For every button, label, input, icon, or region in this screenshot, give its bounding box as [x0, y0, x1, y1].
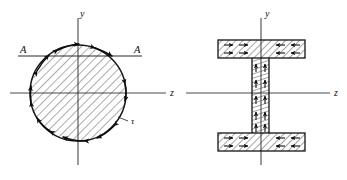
circular-cross-section-panel: y z A A τ [10, 8, 174, 165]
ibeam-z-axis-label: z [333, 87, 338, 98]
circular-y-axis-label: y [79, 8, 85, 19]
bottom-flange-hatch [218, 133, 305, 151]
section-label-a-left: A [19, 44, 27, 55]
ibeam-cross-section-panel: y z [186, 8, 338, 165]
circular-z-axis-label: z [169, 87, 174, 98]
section-label-a-right: A [133, 44, 141, 55]
web-hatch [252, 58, 269, 133]
tau-leader-line [118, 117, 128, 121]
ibeam-y-axis-label: y [264, 8, 270, 19]
shear-stress-symbol-label: τ [131, 116, 135, 126]
engineering-figure: y z A A τ [0, 0, 347, 180]
stress-arrow [31, 86, 32, 102]
top-flange-hatch [218, 40, 305, 58]
figure-root: y z A A τ [0, 0, 347, 180]
